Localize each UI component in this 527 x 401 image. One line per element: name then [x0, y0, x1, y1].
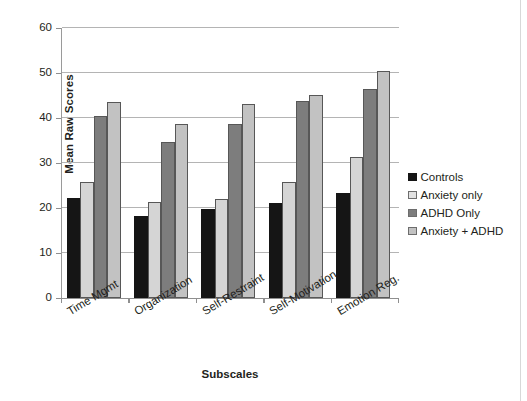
bar	[228, 124, 242, 298]
bar	[296, 101, 310, 298]
x-tick-mark-4	[331, 298, 332, 303]
bar	[377, 71, 391, 298]
bar	[309, 95, 323, 298]
chart-legend: ControlsAnxiety onlyADHD OnlyAnxiety + A…	[408, 168, 523, 240]
legend-swatch-icon	[408, 227, 417, 236]
legend-item: Controls	[408, 168, 523, 186]
bar	[175, 124, 189, 298]
bar-group	[332, 28, 399, 298]
y-tick-label-30: 30	[12, 157, 52, 168]
legend-swatch-icon	[408, 191, 417, 200]
bar-group	[197, 28, 264, 298]
legend-label: Anxiety only	[421, 189, 483, 201]
bar	[161, 142, 175, 298]
bar	[350, 157, 364, 298]
bar-group	[62, 28, 129, 298]
bar	[80, 182, 94, 298]
y-tick-label-40: 40	[12, 112, 52, 123]
y-tick-label-60: 60	[12, 22, 52, 33]
plot-area	[61, 28, 399, 298]
x-tick-mark-0	[61, 298, 62, 303]
bar	[148, 202, 162, 298]
bar	[269, 203, 283, 298]
bar	[282, 182, 296, 298]
legend-label: Controls	[421, 171, 464, 183]
bar	[134, 216, 148, 298]
legend-swatch-icon	[408, 209, 417, 218]
legend-label: ADHD Only	[421, 207, 480, 219]
x-tick-mark-5	[398, 298, 399, 303]
bar	[107, 102, 121, 298]
x-tick-mark-3	[263, 298, 264, 303]
legend-item: Anxiety + ADHD	[408, 222, 523, 240]
x-axis-title: Subscales	[0, 368, 460, 380]
legend-swatch-icon	[408, 173, 417, 182]
legend-label: Anxiety + ADHD	[421, 225, 504, 237]
bar	[336, 193, 350, 298]
y-tick-label-20: 20	[12, 202, 52, 213]
bar	[201, 209, 215, 298]
x-tick-mark-1	[128, 298, 129, 303]
bar-group	[264, 28, 331, 298]
bar	[215, 199, 229, 298]
bar-group	[129, 28, 196, 298]
legend-item: ADHD Only	[408, 204, 523, 222]
bar	[67, 198, 81, 298]
y-tick-label-10: 10	[12, 247, 52, 258]
bar	[242, 104, 256, 298]
x-tick-mark-2	[196, 298, 197, 303]
legend-item: Anxiety only	[408, 186, 523, 204]
y-tick-label-0: 0	[12, 292, 52, 303]
bar	[363, 89, 377, 298]
bar-chart-figure: Mean Raw Scores 0102030405060 Time MgmtO…	[0, 0, 527, 401]
y-tick-label-50: 50	[12, 67, 52, 78]
bar	[94, 116, 108, 298]
